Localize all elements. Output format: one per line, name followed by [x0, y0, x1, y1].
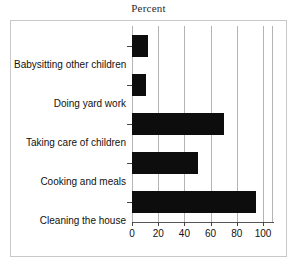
x-tick-0 [132, 222, 133, 226]
x-tick-label-0: 0 [119, 228, 145, 239]
x-tick-label-40: 40 [171, 228, 197, 239]
plot-right-edge [272, 26, 273, 222]
plot-area: 020406080100 [132, 26, 274, 230]
x-tick-label-60: 60 [198, 228, 224, 239]
x-tick-20 [158, 222, 159, 226]
x-tick-40 [184, 222, 185, 226]
y-tick-1 [127, 85, 132, 86]
chart-title: Percent [0, 2, 297, 14]
y-tick-4 [127, 202, 132, 203]
x-tick-label-100: 100 [250, 228, 276, 239]
bar [132, 35, 148, 57]
category-label: Cooking and meals [14, 176, 126, 187]
category-label: Babysitting other children [14, 59, 126, 70]
category-label: Doing yard work [14, 98, 126, 109]
bar [132, 191, 256, 213]
x-tick-80 [237, 222, 238, 226]
bar [132, 113, 224, 135]
x-tick-100 [263, 222, 264, 226]
y-tick-2 [127, 124, 132, 125]
y-tick-0 [127, 46, 132, 47]
x-tick-label-80: 80 [224, 228, 250, 239]
x-axis-line [132, 222, 274, 223]
x-tick-label-20: 20 [145, 228, 171, 239]
category-label: Taking care of children [14, 137, 126, 148]
bar [132, 152, 198, 174]
data-region [132, 26, 263, 222]
chart-figure: Percent 020406080100 Babysitting other c… [0, 0, 297, 269]
y-tick-3 [127, 163, 132, 164]
gridline-x-100 [263, 26, 264, 222]
x-tick-60 [211, 222, 212, 226]
category-label: Cleaning the house [14, 215, 126, 226]
bar [132, 74, 146, 96]
